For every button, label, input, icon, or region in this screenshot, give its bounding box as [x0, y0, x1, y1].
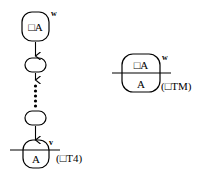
intermediate-node-1 [25, 58, 46, 72]
tm-top-label: □A [134, 59, 149, 71]
vertical-ellipsis-icon [34, 84, 37, 107]
rule-label-tm: (□TM) [161, 80, 192, 93]
bottom-node-superscript: v [49, 138, 53, 147]
right-rule-tm: □A A w (□TM) [112, 53, 192, 93]
tm-bottom-label: A [137, 78, 145, 90]
rule-label-t4: (□T4) [56, 152, 83, 165]
left-derivation-chain: □A w A v (□T4) [10, 9, 83, 168]
diagram-canvas: □A w A v (□T4) □A A w (□TM [0, 0, 214, 170]
intermediate-node-2 [25, 111, 46, 125]
bottom-node-label: A [32, 153, 40, 165]
tm-superscript: w [162, 53, 168, 62]
top-node-label: □A [28, 21, 43, 33]
top-node-superscript: w [51, 9, 57, 18]
